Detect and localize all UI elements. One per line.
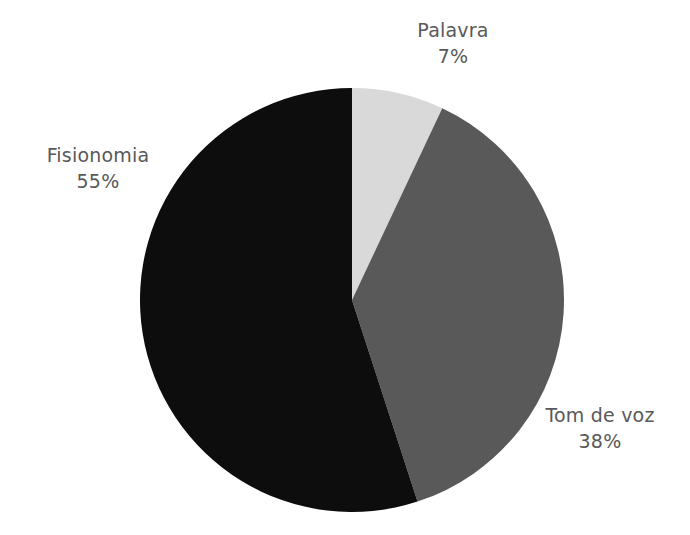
pie-slice-group xyxy=(140,88,564,512)
pie-label-palavra: Palavra 7% xyxy=(383,18,523,69)
pie-label-palavra-value: 7% xyxy=(383,44,523,70)
pie-label-fisionomia-value: 55% xyxy=(8,169,188,195)
pie-chart: Palavra 7% Fisionomia 55% Tom de voz 38% xyxy=(0,0,690,535)
pie-label-fisionomia-name: Fisionomia xyxy=(8,143,188,169)
pie-label-tom-de-voz: Tom de voz 38% xyxy=(520,403,680,454)
pie-label-tom-de-voz-name: Tom de voz xyxy=(520,403,680,429)
pie-label-palavra-name: Palavra xyxy=(383,18,523,44)
pie-label-fisionomia: Fisionomia 55% xyxy=(8,143,188,194)
pie-chart-canvas xyxy=(0,0,690,535)
pie-label-tom-de-voz-value: 38% xyxy=(520,429,680,455)
